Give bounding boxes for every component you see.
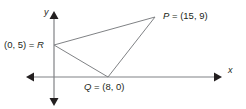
y-axis-label: y — [44, 8, 49, 17]
y-axis-up-arrowhead — [50, 11, 59, 19]
geometry-figure: P = (15, 9) (0, 5) = R Q = (8, 0) y x — [0, 0, 246, 109]
point-label-q: Q = (8, 0) — [84, 82, 124, 92]
point-label-p: P = (15, 9) — [163, 11, 208, 21]
edge-r-p — [54, 17, 155, 45]
point-label-p-coords: = (15, 9) — [169, 10, 207, 21]
edge-r-q — [54, 45, 108, 77]
x-axis-right-arrowhead — [214, 73, 222, 82]
edge-q-p — [108, 17, 155, 77]
coordinate-plane-svg — [0, 0, 246, 109]
x-axis-label: x — [228, 66, 233, 75]
point-label-q-coords: = (8, 0) — [91, 81, 124, 92]
point-label-r-coords: (0, 5) = — [4, 39, 37, 50]
point-label-r: (0, 5) = R — [4, 40, 44, 50]
x-axis-left-arrowhead — [26, 73, 34, 82]
y-axis-down-arrowhead — [50, 98, 59, 106]
point-label-r-name: R — [37, 39, 44, 50]
